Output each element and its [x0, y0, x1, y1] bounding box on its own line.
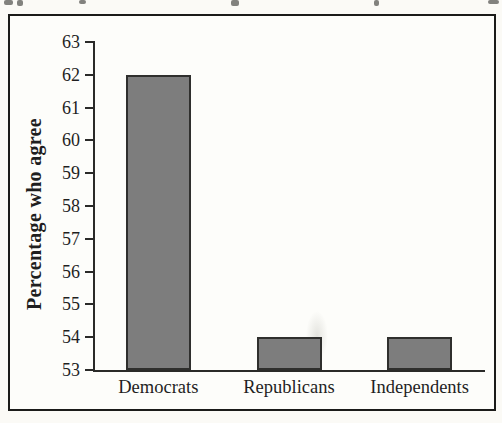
- figure-frame: Percentage who agree 5354555657585960616…: [8, 14, 496, 411]
- y-tick: [85, 172, 93, 174]
- x-category-label: Independents: [345, 376, 495, 398]
- y-tick: [85, 139, 93, 141]
- y-axis-line: [93, 41, 95, 372]
- text-remnant-speck: [374, 0, 379, 6]
- text-remnant-speck: [17, 0, 23, 6]
- y-tick: [85, 41, 93, 43]
- y-tick: [85, 271, 93, 273]
- text-remnant-speck: [488, 0, 499, 4]
- y-tick-label: 59: [40, 163, 80, 183]
- y-tick: [85, 303, 93, 305]
- text-remnant-speck: [4, 0, 13, 5]
- y-tick-label: 53: [40, 360, 80, 380]
- y-tick-label: 56: [40, 262, 80, 282]
- x-category-label: Republicans: [214, 376, 364, 398]
- y-tick-label: 55: [40, 294, 80, 314]
- text-remnant-speck: [79, 0, 86, 4]
- y-tick: [85, 107, 93, 109]
- y-tick-label: 57: [40, 229, 80, 249]
- y-tick: [85, 205, 93, 207]
- y-tick-label: 60: [40, 130, 80, 150]
- y-tick-label: 54: [40, 327, 80, 347]
- y-tick-label: 62: [40, 65, 80, 85]
- text-remnant-speck: [231, 0, 239, 6]
- scanned-figure-page: Percentage who agree 5354555657585960616…: [0, 0, 502, 423]
- y-tick: [85, 238, 93, 240]
- y-tick-label: 58: [40, 196, 80, 216]
- y-tick-label: 61: [40, 98, 80, 118]
- x-axis-line: [93, 370, 485, 372]
- y-tick: [85, 336, 93, 338]
- y-tick-label: 63: [40, 32, 80, 52]
- bar-democrats: [126, 75, 191, 370]
- y-tick: [85, 74, 93, 76]
- bar-independents: [387, 337, 452, 370]
- y-tick: [85, 369, 93, 371]
- bar-chart: Percentage who agree 5354555657585960616…: [10, 16, 494, 409]
- bar-republicans: [257, 337, 322, 370]
- x-category-label: Democrats: [83, 376, 233, 398]
